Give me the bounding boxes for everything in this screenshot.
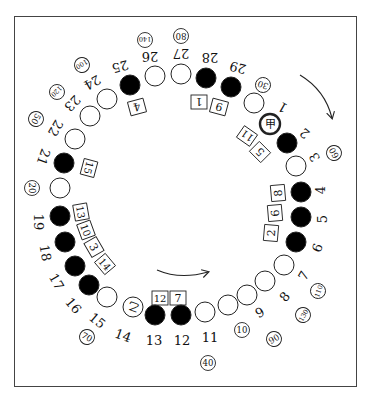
white-stone — [244, 93, 264, 113]
black-stone — [196, 68, 216, 88]
stone-4 — [291, 182, 311, 202]
white-stone — [65, 129, 85, 149]
stone-27 — [171, 64, 191, 84]
sequence-box: 12 — [152, 291, 168, 305]
sequence-box-text: 7 — [175, 292, 182, 305]
sequence-box: 11 — [236, 126, 257, 147]
black-stone — [145, 305, 165, 325]
black-stone — [291, 207, 311, 227]
clockwise-arrow-top-right-icon — [300, 75, 332, 118]
black-stone — [50, 206, 70, 226]
stone-2 — [277, 133, 297, 153]
circled-tag: 140 — [138, 33, 153, 48]
position-label: 24 — [81, 72, 103, 93]
position-label: 26 — [142, 49, 159, 64]
stone-11 — [195, 302, 215, 322]
position-label: 3 — [306, 150, 323, 165]
white-stone — [145, 66, 165, 86]
stone-15 — [97, 287, 117, 307]
sequence-box: 4 — [127, 98, 146, 116]
circled-tag: 50 — [26, 109, 46, 129]
sequence-box: 10 — [77, 220, 96, 240]
stone-30 — [244, 93, 264, 113]
white-stone — [195, 302, 215, 322]
position-label: 12 — [174, 333, 191, 348]
position-label: 2 — [297, 125, 313, 142]
stone-8 — [255, 271, 275, 291]
white-stone — [218, 295, 238, 315]
stone-9 — [237, 285, 257, 305]
circled-tag: 90 — [264, 329, 284, 349]
black-stone — [120, 75, 140, 95]
stone-ring-diagram: 419115158621310314127 甲乙 123456789111213… — [0, 0, 373, 402]
stone-6 — [286, 232, 306, 252]
circled-tag: 130 — [293, 305, 313, 325]
sequence-box: 15 — [80, 158, 98, 177]
stone-12 — [171, 305, 191, 325]
position-label: 28 — [202, 50, 219, 65]
stone-21 — [54, 153, 74, 173]
stone-19 — [50, 206, 70, 226]
white-stone — [97, 89, 117, 109]
circled-tag-text: 80 — [176, 31, 187, 41]
position-label: 18 — [37, 243, 55, 262]
position-label: 21 — [34, 147, 54, 168]
black-stone — [79, 275, 99, 295]
black-stone — [65, 256, 85, 276]
circled-tag: 80 — [174, 29, 189, 44]
black-stone — [54, 153, 74, 173]
position-label: 23 — [61, 92, 83, 114]
black-stone — [277, 133, 297, 153]
white-stone — [97, 287, 117, 307]
sequence-box: 8 — [270, 184, 285, 201]
stone-26 — [145, 66, 165, 86]
circled-tag-text: 20 — [27, 183, 37, 194]
position-label: 25 — [110, 57, 130, 76]
position-label: 17 — [46, 271, 67, 293]
stone-18 — [55, 232, 75, 252]
sequence-box: 9 — [209, 98, 228, 116]
white-stone — [80, 106, 100, 126]
position-label: 14 — [113, 326, 134, 346]
white-stone — [50, 178, 70, 198]
black-stone — [221, 77, 241, 97]
sequence-box: 1 — [191, 95, 207, 109]
stone-20 — [50, 178, 70, 198]
stone-24 — [97, 89, 117, 109]
stone-16 — [79, 275, 99, 295]
sequence-box: 6 — [267, 204, 282, 221]
circled-tag-text: 40 — [203, 358, 214, 368]
black-stone — [291, 182, 311, 202]
stone-13 — [145, 305, 165, 325]
white-stone — [274, 255, 294, 275]
sequence-box-text: 13 — [74, 205, 87, 219]
position-label: 4 — [313, 186, 328, 194]
circled-tag-text: 10 — [237, 325, 248, 335]
stone-1: 甲 — [260, 114, 280, 134]
position-label: 29 — [228, 58, 248, 77]
circled-tag: 100 — [72, 55, 92, 75]
stone-29 — [221, 77, 241, 97]
stone-5 — [291, 207, 311, 227]
sequence-box-text: 8 — [272, 189, 286, 197]
position-label: 11 — [202, 330, 219, 345]
white-stone — [286, 156, 306, 176]
sequence-box: 14 — [94, 253, 115, 274]
sequence-box-text: 2 — [265, 229, 279, 237]
circled-tag: 120 — [46, 81, 67, 102]
circled-tag: 10 — [235, 323, 250, 338]
sequence-box-text: 6 — [269, 209, 283, 217]
circled-tag: 20 — [25, 181, 40, 196]
black-stone — [55, 232, 75, 252]
position-label: 15 — [86, 310, 108, 332]
stone-28 — [196, 68, 216, 88]
stone-7 — [274, 255, 294, 275]
sequence-box-text: 1 — [196, 95, 203, 108]
position-label: 19 — [31, 214, 46, 231]
sequence-boxes: 419115158621310314127 — [73, 95, 286, 305]
stone-3 — [286, 156, 306, 176]
white-stone — [255, 271, 275, 291]
stone-10 — [218, 295, 238, 315]
white-stone — [171, 64, 191, 84]
black-stone — [286, 232, 306, 252]
